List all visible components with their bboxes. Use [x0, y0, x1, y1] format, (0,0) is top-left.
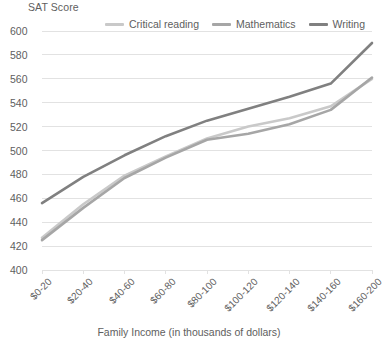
legend-label: Writing: [333, 19, 365, 30]
x-axis-tick-label-text: $0-20: [28, 276, 54, 302]
x-axis-tick-label: $160-200: [376, 276, 384, 284]
legend-item-critical-reading[interactable]: Critical reading: [105, 19, 199, 30]
x-axis-tick-label: $140-160: [335, 276, 343, 284]
x-axis-tick-label-text: $80-100: [185, 276, 219, 310]
y-axis-tick-label: 560: [10, 73, 38, 85]
legend-swatch-icon: [309, 23, 328, 26]
x-axis-tick-label: $120-140: [294, 276, 302, 284]
y-axis-tick-label: 580: [10, 49, 38, 61]
x-axis-tick-label-text: $100-120: [222, 276, 260, 314]
y-axis-tick-label: 540: [10, 97, 38, 109]
x-axis-tick-label: $40-60: [129, 276, 137, 284]
y-axis-title: SAT Score: [28, 1, 79, 13]
series-line-mathematics: [42, 78, 372, 241]
x-axis-title: Family Income (in thousands of dollars): [0, 326, 378, 338]
y-axis-tick-label: 480: [10, 168, 38, 180]
x-axis-tick-label-text: $120-140: [264, 276, 302, 314]
x-axis-tick-label: $20-40: [87, 276, 95, 284]
plot-svg: [42, 31, 372, 270]
x-axis-tick-label-text: $140-160: [305, 276, 343, 314]
y-axis-tick-label: 400: [10, 264, 38, 276]
x-axis-tick-label: $0-20: [46, 276, 54, 284]
chart-legend: Critical readingMathematicsWriting: [105, 19, 365, 30]
legend-label: Critical reading: [129, 19, 199, 30]
legend-label: Mathematics: [236, 19, 296, 30]
y-axis-tick-label: 520: [10, 121, 38, 133]
x-axis-tick-label-text: $40-60: [106, 276, 136, 306]
legend-swatch-icon: [212, 23, 231, 26]
y-axis-tick-label: 440: [10, 216, 38, 228]
legend-item-writing[interactable]: Writing: [309, 19, 365, 30]
x-axis-tick-label: $80-100: [211, 276, 219, 284]
x-axis-tick-label-text: $160-200: [346, 276, 384, 314]
legend-swatch-icon: [105, 23, 124, 26]
y-axis-tick-label: 420: [10, 240, 38, 252]
y-axis-tick-label: 600: [10, 25, 38, 37]
y-axis-tick-label: 500: [10, 145, 38, 157]
x-axis-tick-label-text: $60-80: [148, 276, 178, 306]
series-line-writing: [42, 43, 372, 203]
x-axis-tick-label: $100-120: [252, 276, 260, 284]
plot-area: [42, 31, 372, 270]
y-axis-tick-label: 460: [10, 192, 38, 204]
x-axis-tick-label-text: $20-40: [65, 276, 95, 306]
legend-item-mathematics[interactable]: Mathematics: [212, 19, 296, 30]
x-axis-tick-label: $60-80: [170, 276, 178, 284]
